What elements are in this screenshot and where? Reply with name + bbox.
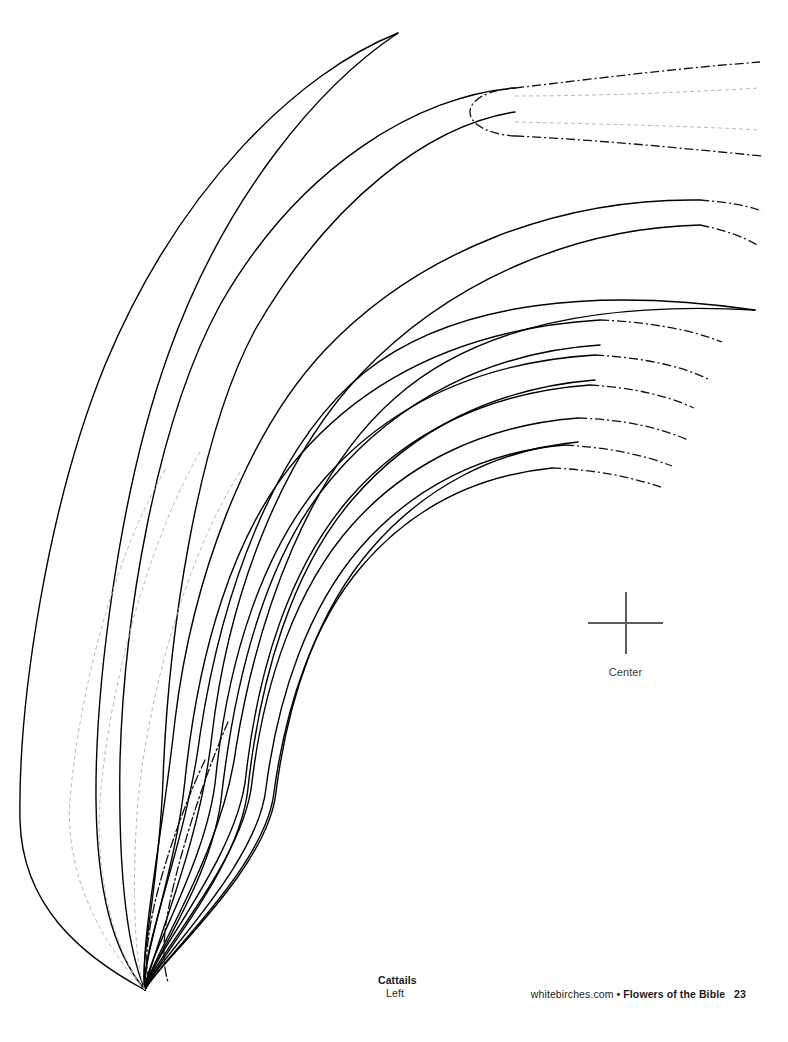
- leaf-1-outer-long-edge-b: [96, 33, 398, 990]
- leaf-8-edge-b: [145, 442, 578, 990]
- leaf-8-edge-a: [145, 418, 578, 990]
- crosshair-icon: [588, 592, 663, 654]
- publisher-website: whitebirches.com: [531, 988, 614, 1000]
- pattern-page: Center Cattails Left whitebirches.com•Fl…: [0, 0, 788, 1042]
- leaf-4-long-point-edge-a: [145, 300, 755, 990]
- leaf-2-dashdot-tip-edge-b: [144, 112, 515, 990]
- pattern-title: Cattails: [378, 974, 417, 987]
- center-label: Center: [588, 666, 663, 679]
- book-title: Flowers of the Bible: [623, 988, 725, 1000]
- leaf-2-dashdot-tip-edge-a: [120, 88, 515, 990]
- crosshair-vertical-rule: [625, 592, 627, 654]
- leaf-9-dashdot-ext: [565, 445, 672, 466]
- leaf-10-edge-a: [145, 468, 552, 990]
- leaf-2-dashdot-tip-dashdot-ext-b: [515, 136, 762, 156]
- page-number: 23: [725, 988, 746, 1000]
- leaf-6-dashdot-ext: [595, 355, 710, 380]
- leaf-3-dashdot-ext-b: [700, 225, 757, 245]
- footer-right: whitebirches.com•Flowers of the Bible23: [531, 988, 746, 1000]
- footer-left: Cattails Left: [378, 974, 417, 1000]
- leaf-3-dashdot-ext-a: [700, 200, 762, 211]
- guide-tip-line-b: [515, 122, 760, 130]
- dash-dot-continuation-lines: [470, 62, 762, 488]
- leaf-2-dashdot-tip-dashdot-cap: [470, 88, 515, 136]
- solid-leaf-outlines: [20, 33, 755, 990]
- leaf-5-edge-b: [145, 345, 600, 990]
- leaf-9-edge-a: [145, 445, 565, 990]
- leaf-8-dashdot-ext: [578, 418, 688, 440]
- leaf-5-dashdot-ext: [600, 320, 722, 342]
- leaf-4-long-point-edge-b: [145, 308, 755, 990]
- guide-tip-line-a: [515, 88, 760, 96]
- cattail-leaf-artwork: [0, 0, 788, 1042]
- pattern-subtitle: Left: [378, 987, 417, 1000]
- leaf-2-dashdot-tip-dashdot-ext-a: [515, 62, 760, 88]
- leaf-7-dashdot-ext: [590, 385, 694, 408]
- footer-separator: •: [614, 988, 624, 1000]
- leaf-10-dashdot-ext: [552, 468, 664, 488]
